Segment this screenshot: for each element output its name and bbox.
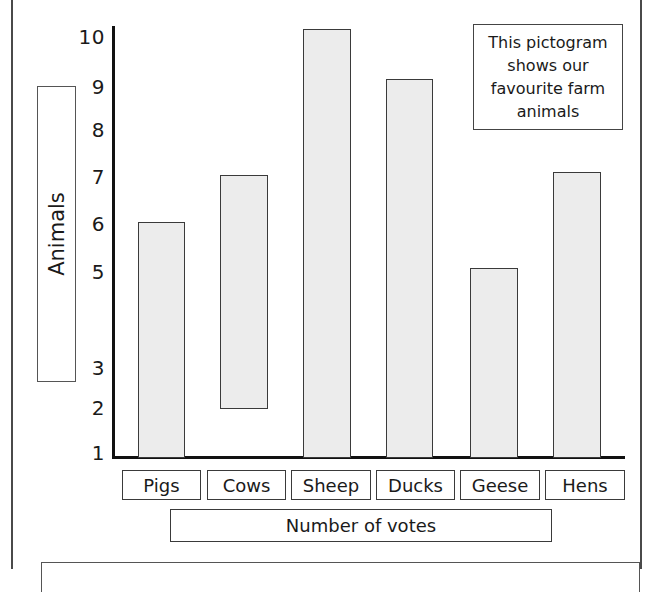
y-tick-10: 10 xyxy=(65,27,105,47)
category-label-cows[interactable]: Cows xyxy=(207,470,286,500)
bar-pigs[interactable] xyxy=(138,222,185,458)
category-label-hens[interactable]: Hens xyxy=(545,470,625,500)
bar-geese[interactable] xyxy=(470,268,518,458)
category-label-geese[interactable]: Geese xyxy=(460,470,540,500)
bar-cows[interactable] xyxy=(220,175,268,409)
category-label-pigs[interactable]: Pigs xyxy=(122,470,201,500)
y-axis-line xyxy=(112,26,115,459)
bar-ducks[interactable] xyxy=(386,79,433,458)
bar-hens[interactable] xyxy=(553,172,601,458)
callout-line-3: favourite farm xyxy=(491,79,605,98)
callout-line-4: animals xyxy=(517,102,580,121)
category-label-ducks[interactable]: Ducks xyxy=(376,470,455,500)
y-axis-title: Animals xyxy=(45,192,69,276)
x-axis-title-box: Number of votes xyxy=(170,509,552,542)
callout-note-box: This pictogram shows our favourite farm … xyxy=(473,24,623,130)
bar-sheep[interactable] xyxy=(303,29,351,458)
callout-line-1: This pictogram xyxy=(488,33,607,52)
callout-line-2: shows our xyxy=(507,56,588,75)
x-axis-title: Number of votes xyxy=(286,515,436,536)
y-axis-title-box: Animals xyxy=(37,86,76,382)
y-tick-2: 2 xyxy=(65,398,105,418)
callout-note-text: This pictogram shows our favourite farm … xyxy=(488,31,607,123)
y-tick-1: 1 xyxy=(65,443,105,463)
category-label-sheep[interactable]: Sheep xyxy=(291,470,371,500)
x-axis-line xyxy=(112,456,625,459)
bottom-cutoff-box xyxy=(41,562,640,592)
